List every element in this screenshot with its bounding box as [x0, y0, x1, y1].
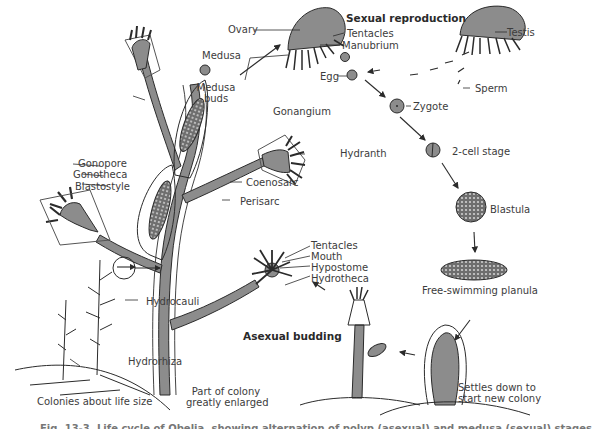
asexual-budding-heading: Asexual budding	[243, 331, 342, 342]
label-blastostyle: Blastostyle	[75, 181, 130, 192]
colony-stalk	[96, 58, 266, 395]
egg	[347, 70, 357, 80]
label-ovary: Ovary	[228, 24, 258, 35]
label-colonies-life-size: Colonies about life size	[37, 396, 152, 407]
label-part-colony-line2: greatly enlarged	[186, 397, 266, 408]
label-zygote: Zygote	[413, 101, 448, 112]
label-settles-line2: start new colony	[458, 393, 541, 404]
label-tentacles-polyp: Tentacles	[311, 240, 358, 251]
label-sperm: Sperm	[475, 83, 508, 94]
label-medusa-buds-line1: Medusa	[196, 82, 236, 93]
blastula	[456, 192, 486, 222]
label-gonopore: Gonopore	[78, 158, 127, 169]
label-hydrorhiza: Hydrorhiza	[128, 356, 182, 367]
label-medusa-buds-line2: buds	[196, 93, 236, 104]
leader-lines	[70, 30, 507, 366]
label-mouth: Mouth	[311, 251, 342, 262]
label-medusa: Medusa	[202, 50, 241, 61]
life-size-colonies	[15, 257, 170, 410]
label-gonotheca: Gonotheca	[73, 169, 127, 180]
label-part-colony-line1: Part of colony	[186, 386, 266, 397]
label-medusa-buds: Medusa buds	[196, 82, 236, 104]
label-2-cell-stage: 2-cell stage	[452, 146, 510, 157]
label-tentacles-medusa: Tentacles	[347, 28, 394, 39]
label-perisarc: Perisarc	[240, 196, 279, 207]
label-coenosarc: Coenosarc	[246, 177, 298, 188]
label-testis: Testis	[507, 27, 535, 38]
label-manubrium: Manubrium	[342, 40, 399, 51]
egg-small-1	[341, 53, 350, 62]
label-settles-down: Settles down to start new colony	[458, 382, 541, 404]
planula	[441, 260, 507, 280]
figure-caption-cropped: Fig. 13-3. Life cycle of Obelia, showing…	[40, 424, 596, 429]
label-hydranth: Hydranth	[340, 148, 387, 159]
label-hydrotheca: Hydrotheca	[311, 273, 369, 284]
label-hypostome: Hypostome	[311, 262, 368, 273]
sexual-reproduction-heading: Sexual reproduction	[346, 13, 466, 24]
young-polyp	[300, 287, 420, 405]
medusa-female	[286, 8, 345, 70]
label-part-of-colony: Part of colony greatly enlarged	[186, 386, 266, 408]
label-free-swimming-planula: Free-swimming planula	[422, 285, 538, 296]
sperm-cells	[410, 52, 469, 84]
polyp-tentacled	[252, 250, 292, 284]
label-blastula: Blastula	[490, 204, 530, 215]
label-settles-line1: Settles down to	[458, 382, 541, 393]
label-egg: Egg	[320, 71, 339, 82]
label-gonangium: Gonangium	[273, 106, 331, 117]
label-hydrocauli: Hydrocauli	[146, 296, 199, 307]
